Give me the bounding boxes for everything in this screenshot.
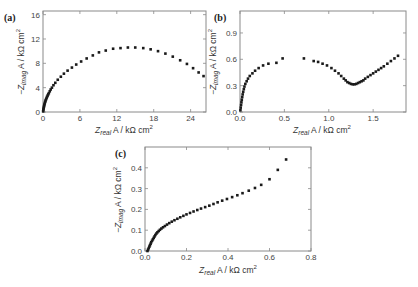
- data-point: [149, 48, 152, 51]
- panel-b-frame: [240, 11, 406, 112]
- x-tick-label: 0.6: [264, 253, 276, 262]
- y-tick-label: 0.0: [226, 108, 238, 117]
- data-point: [127, 46, 130, 49]
- panel-a-label: (a): [4, 12, 16, 24]
- data-point: [241, 93, 244, 96]
- data-point: [216, 201, 219, 204]
- data-point: [202, 75, 205, 78]
- data-point: [185, 213, 188, 216]
- panel-a-data-points: [42, 46, 205, 112]
- y-tick-label: 8: [36, 59, 41, 68]
- panel-c-x-axis-label: Zreal A / kΩ cm2: [198, 264, 258, 276]
- x-tick-label: 24: [186, 114, 195, 123]
- x-tick-label: 0: [41, 114, 46, 123]
- x-tick-label: 6: [78, 114, 83, 123]
- data-point: [179, 216, 182, 219]
- data-point: [221, 199, 224, 202]
- data-point: [239, 109, 242, 112]
- data-point: [337, 72, 340, 75]
- data-point: [242, 91, 245, 94]
- data-point: [369, 74, 372, 77]
- y-tick-label: 0.1: [131, 226, 143, 235]
- y-tick-label: 0.0: [131, 247, 143, 256]
- data-point: [262, 64, 265, 67]
- data-point: [239, 106, 242, 109]
- x-tick-label: 0.5: [279, 114, 291, 123]
- data-point: [240, 101, 243, 104]
- data-point: [142, 47, 145, 50]
- panel-b-y-axis-label: −Zimag A / kΩ cm2: [207, 28, 220, 95]
- panel-c-ticks: 0.00.20.40.60.80.00.10.20.30.4: [131, 147, 317, 262]
- data-point: [281, 57, 284, 60]
- y-tick-label: 16: [31, 11, 40, 20]
- panel-b-label: (b): [214, 12, 226, 24]
- y-tick-label: 0.3: [131, 185, 143, 194]
- x-tick-label: 1.5: [368, 114, 380, 123]
- data-point: [390, 60, 393, 63]
- data-point: [380, 67, 383, 70]
- data-point: [240, 104, 243, 107]
- data-point: [92, 54, 95, 57]
- data-point: [244, 83, 247, 86]
- data-point: [383, 65, 386, 68]
- panel-a-x-axis-label: Zreal A / kΩ cm2: [94, 124, 154, 136]
- data-point: [182, 215, 185, 218]
- data-point: [192, 67, 195, 70]
- data-point: [173, 219, 176, 222]
- y-tick-label: 0: [36, 108, 41, 117]
- data-point: [226, 198, 229, 201]
- y-tick-label: 0.2: [131, 205, 143, 214]
- data-point: [189, 212, 192, 215]
- y-tick-label: 0.4: [131, 164, 143, 173]
- data-point: [312, 60, 315, 63]
- data-point: [75, 63, 78, 66]
- data-point: [321, 62, 324, 65]
- data-point: [54, 82, 57, 85]
- data-point: [164, 52, 167, 55]
- panel-a-frame: [43, 11, 206, 112]
- panel-b-data-points: [239, 54, 399, 111]
- panel-c-y-axis-label: −Zimag A / kΩ cm2: [112, 166, 125, 233]
- data-point: [204, 206, 207, 209]
- y-tick-label: 12: [31, 35, 40, 44]
- data-point: [60, 75, 63, 78]
- data-point: [275, 62, 278, 65]
- data-point: [241, 96, 244, 99]
- panel-b-x-axis-label: Zreal A / kΩ cm2: [292, 124, 352, 136]
- panel-c-label: (c): [115, 148, 126, 160]
- y-tick-label: 0.9: [226, 29, 238, 38]
- data-point: [119, 47, 122, 50]
- data-point: [212, 203, 215, 206]
- data-point: [393, 57, 396, 60]
- data-point: [251, 72, 254, 75]
- data-point: [80, 60, 83, 63]
- data-point: [377, 69, 380, 72]
- x-tick-label: 18: [149, 114, 158, 123]
- data-point: [134, 46, 137, 49]
- y-tick-label: 0.3: [226, 82, 238, 91]
- panel-c-data-points: [146, 158, 287, 252]
- data-point: [257, 67, 260, 70]
- data-point: [236, 194, 239, 197]
- data-point: [397, 54, 400, 57]
- data-point: [63, 72, 66, 75]
- data-point: [66, 69, 69, 72]
- data-point: [241, 192, 244, 195]
- data-point: [330, 67, 333, 70]
- y-tick-label: 0.6: [226, 55, 238, 64]
- nyquist-figure: (a) 061218240481216 Zreal A / kΩ cm2 −Zi…: [0, 0, 418, 287]
- data-point: [247, 77, 250, 80]
- panel-b: (b) 0.00.51.01.50.00.30.60.9 Zreal A / k…: [207, 11, 406, 136]
- x-tick-label: 0.2: [181, 253, 193, 262]
- data-point: [277, 169, 280, 172]
- data-point: [372, 72, 375, 75]
- data-point: [197, 71, 200, 74]
- data-point: [260, 184, 263, 187]
- data-point: [98, 51, 101, 54]
- data-point: [171, 55, 174, 58]
- data-point: [267, 62, 270, 65]
- data-point: [364, 77, 367, 80]
- data-point: [186, 63, 189, 66]
- data-point: [268, 178, 271, 181]
- data-point: [170, 220, 173, 223]
